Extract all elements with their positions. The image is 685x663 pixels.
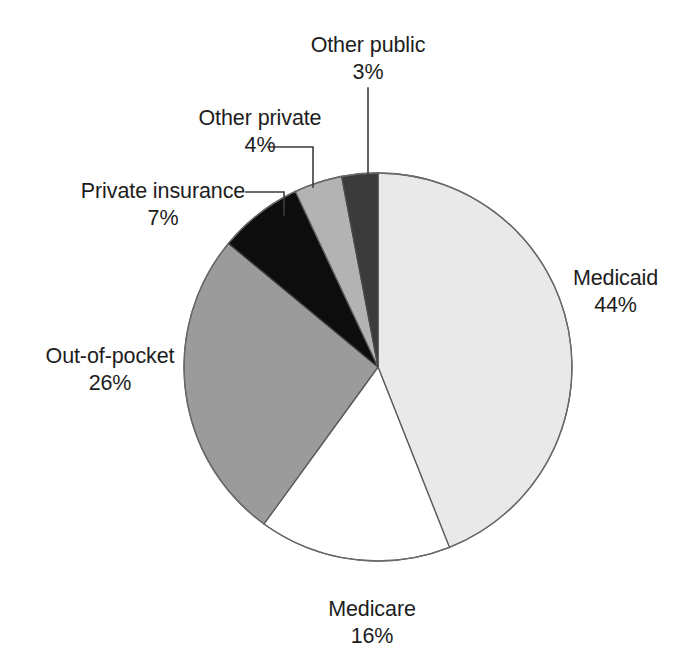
- slice-label-other-public: Other public 3%: [268, 32, 468, 86]
- slice-label-private-insurance: Private insurance 7%: [48, 178, 278, 232]
- slice-label-medicaid: Medicaid 44%: [548, 265, 683, 319]
- slice-label-out-of-pocket: Out-of-pocket 26%: [10, 343, 210, 397]
- slice-label-other-private-name: Other private: [170, 105, 350, 132]
- slice-label-other-private-percent: 4%: [170, 132, 350, 159]
- pie-chart-page: Other public 3% Other private 4% Private…: [0, 0, 685, 663]
- slice-label-medicare-name: Medicare: [282, 596, 462, 623]
- slice-label-out-of-pocket-percent: 26%: [10, 370, 210, 397]
- slice-label-medicare-percent: 16%: [282, 623, 462, 650]
- slice-label-other-public-name: Other public: [268, 32, 468, 59]
- slice-label-medicare: Medicare 16%: [282, 596, 462, 650]
- pie-chart-figure: [0, 0, 685, 663]
- slice-label-private-insurance-percent: 7%: [48, 205, 278, 232]
- slice-label-medicaid-name: Medicaid: [548, 265, 683, 292]
- slice-label-other-public-percent: 3%: [268, 59, 468, 86]
- slice-label-other-private: Other private 4%: [170, 105, 350, 159]
- slice-label-private-insurance-name: Private insurance: [48, 178, 278, 205]
- slice-label-out-of-pocket-name: Out-of-pocket: [10, 343, 210, 370]
- slice-label-medicaid-percent: 44%: [548, 292, 683, 319]
